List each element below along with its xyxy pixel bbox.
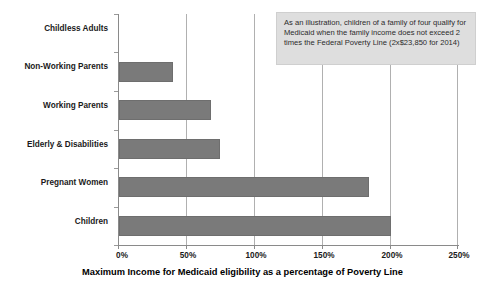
x-tick-50 (186, 245, 187, 249)
illustration-callout-box: As an illustration, children of a family… (276, 12, 476, 65)
x-axis-tick-label-200: 200% (382, 251, 403, 260)
bar-children (119, 216, 391, 236)
x-tick-200 (390, 245, 391, 249)
y-axis-label-elderly-disabilities: Elderly & Disabilities (0, 140, 108, 150)
y-axis-label-childless-adults: Childless Adults (0, 24, 108, 34)
x-tick-0 (118, 245, 119, 249)
x-tick-100 (254, 245, 255, 249)
x-axis-tick-label-50: 50% (180, 251, 196, 260)
y-axis-label-non-working-parents: Non-Working Parents (0, 62, 108, 72)
bar-pregnant-women (119, 177, 369, 197)
illustration-callout-text: As an illustration, children of a family… (284, 18, 469, 49)
y-axis-label-working-parents: Working Parents (0, 101, 108, 111)
x-axis-tick-label-150: 150% (314, 251, 335, 260)
bar-row-elderly-disabilities (118, 130, 458, 169)
x-axis-tick-label-0: 0% (116, 251, 128, 260)
bar-row-children (118, 207, 458, 246)
bar-chart: Childless Adults Non-Working Parents Wor… (0, 0, 485, 288)
bar-elderly-disabilities (119, 139, 220, 159)
x-axis-tick-label-100: 100% (246, 251, 267, 260)
bar-working-parents (119, 100, 211, 120)
y-axis-label-children: Children (0, 217, 108, 227)
x-axis-tick-label-250: 250% (449, 251, 470, 260)
x-tick-250 (457, 245, 458, 249)
bar-row-working-parents (118, 91, 458, 130)
bar-non-working-parents (119, 62, 173, 82)
y-axis-labels: Childless Adults Non-Working Parents Wor… (0, 14, 112, 245)
x-axis-title: Maximum Income for Medicaid eligibility … (0, 267, 485, 277)
x-tick-150 (322, 245, 323, 249)
y-axis-label-pregnant-women: Pregnant Women (0, 178, 108, 188)
bar-row-pregnant-women (118, 168, 458, 207)
x-axis-line (118, 245, 459, 246)
